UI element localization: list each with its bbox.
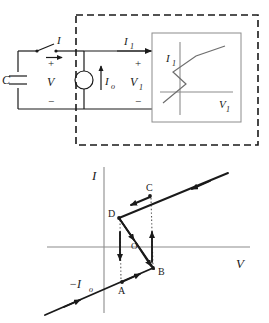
switch-blade bbox=[37, 44, 54, 51]
device-box-V1-subscript: 1 bbox=[226, 105, 230, 114]
arrow-lower-branch-inner bbox=[122, 274, 140, 282]
point-A-marker bbox=[120, 280, 124, 284]
point-B-label: B bbox=[158, 266, 165, 277]
figure-svg: C I + V − I o I 1 + V 1 − bbox=[0, 0, 269, 323]
upper-load-line-branch bbox=[119, 173, 228, 218]
voltage-V-label: V bbox=[47, 75, 56, 89]
source-current-Io-label: I bbox=[104, 75, 110, 87]
point-B-marker bbox=[151, 266, 155, 270]
arrow-upper-branch-outer bbox=[192, 181, 210, 189]
current-source-symbol bbox=[75, 71, 93, 89]
source-current-Io-subscript: o bbox=[111, 82, 115, 91]
arrow-middle-branch-upper bbox=[119, 218, 134, 240]
current-I-label: I bbox=[56, 34, 62, 46]
switch-pivot-node bbox=[35, 49, 38, 52]
offset-minus-Io-label: −I bbox=[69, 277, 82, 291]
arrow-upper-branch-inner bbox=[131, 197, 150, 205]
voltage-V1-label: V bbox=[130, 75, 139, 89]
capacitor-label: C bbox=[2, 73, 11, 87]
offset-minus-Io-subscript: o bbox=[89, 285, 93, 294]
figure-canvas: C I + V − I o I 1 + V 1 − bbox=[0, 0, 269, 323]
point-C-label: C bbox=[146, 182, 153, 193]
graph-I-axis-label: I bbox=[91, 168, 97, 183]
voltage-V-plus-sign: + bbox=[48, 57, 54, 69]
point-O-origin-label: O bbox=[131, 241, 138, 251]
voltage-V-minus-sign: − bbox=[48, 95, 54, 107]
graph-V-axis-label: V bbox=[236, 256, 246, 271]
point-C-marker bbox=[148, 194, 152, 198]
point-D-label: D bbox=[108, 208, 115, 219]
dashed-subsystem-boundary bbox=[76, 15, 258, 145]
current-I1-subscript: 1 bbox=[130, 42, 134, 51]
voltage-V1-subscript: 1 bbox=[139, 83, 143, 92]
voltage-V1-plus-sign: + bbox=[135, 57, 141, 69]
device-box-I1-subscript: 1 bbox=[172, 59, 176, 68]
current-I1-label: I bbox=[123, 35, 129, 47]
point-A-label: A bbox=[118, 285, 126, 296]
device-characteristic-curve bbox=[163, 46, 225, 103]
voltage-V1-minus-sign: − bbox=[135, 95, 141, 107]
point-D-marker bbox=[117, 216, 121, 220]
device-box-I1-label: I bbox=[165, 52, 171, 64]
arrow-lower-branch-outer bbox=[64, 300, 80, 307]
